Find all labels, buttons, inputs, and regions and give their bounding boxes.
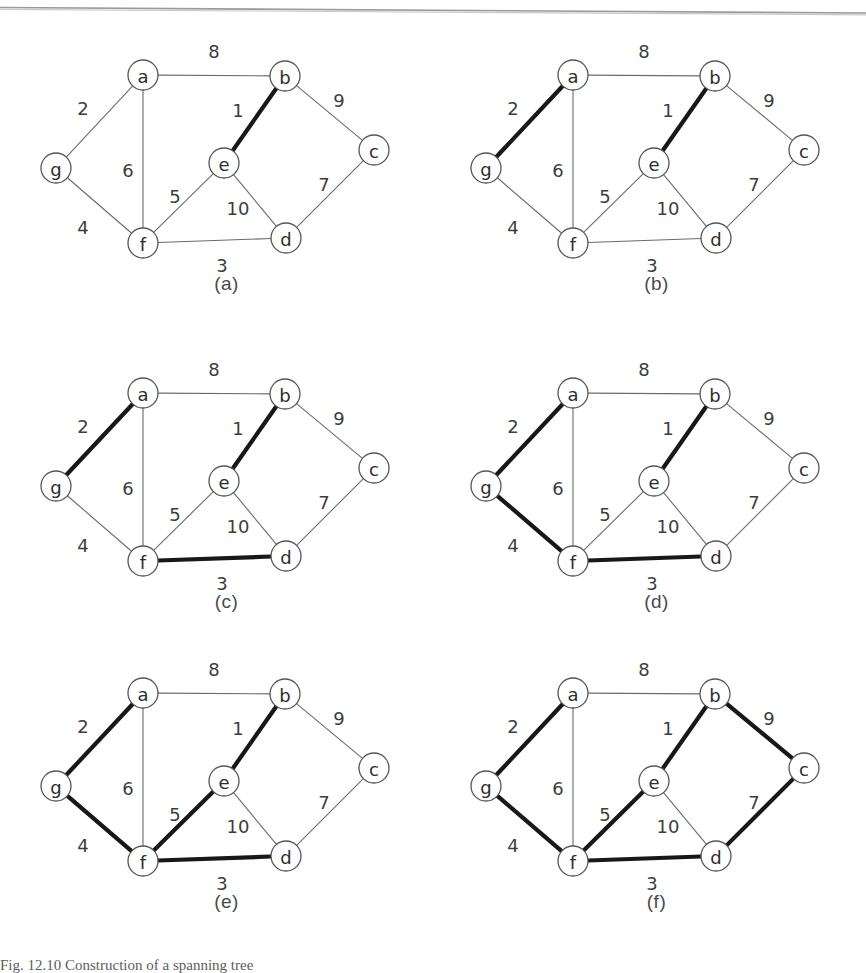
- edge-a-g-highlighted: [496, 86, 563, 157]
- node-label-e: e: [648, 472, 659, 493]
- node-label-f: f: [140, 852, 147, 873]
- graph-panel-a: 82691710354abcdefg(a): [10, 18, 443, 336]
- node-label-c: c: [799, 141, 809, 162]
- graph-drawing-a: 82691710354abcdefg: [10, 18, 443, 293]
- edge-e-f-highlighted: [584, 792, 644, 851]
- edge-weight-d-e: 10: [227, 816, 250, 837]
- node-label-a: a: [137, 384, 148, 405]
- edge-d-f-highlighted: [588, 857, 701, 861]
- edge-weight-c-d: 7: [318, 174, 329, 195]
- node-label-a: a: [137, 66, 148, 87]
- edge-weight-a-g: 2: [507, 98, 518, 119]
- panel-caption-a: (a): [10, 273, 443, 295]
- node-label-f: f: [570, 234, 577, 255]
- edge-weight-a-b: 8: [638, 41, 649, 62]
- edge-weight-e-f: 5: [599, 804, 610, 825]
- edge-e-f: [584, 174, 644, 233]
- graph-drawing-f: 82691710354abcdefg: [440, 636, 866, 911]
- node-label-g: g: [480, 159, 491, 180]
- edge-weight-a-g: 2: [507, 416, 518, 437]
- node-label-a: a: [567, 684, 578, 705]
- edge-weight-d-e: 10: [657, 516, 680, 537]
- node-label-e: e: [218, 772, 229, 793]
- edge-weight-b-c: 9: [333, 408, 344, 429]
- graph-panel-c: 82691710354abcdefg(c): [10, 336, 443, 654]
- node-label-d: d: [280, 847, 291, 868]
- graph-drawing-c: 82691710354abcdefg: [10, 336, 443, 611]
- edge-weight-b-e: 1: [662, 100, 673, 121]
- node-label-d: d: [710, 229, 721, 250]
- edge-weight-a-f: 6: [552, 478, 563, 499]
- node-label-g: g: [480, 777, 491, 798]
- edge-weight-f-g: 4: [77, 535, 88, 556]
- node-label-c: c: [369, 759, 379, 780]
- edge-b-c: [297, 404, 363, 459]
- node-label-a: a: [567, 66, 578, 87]
- node-label-f: f: [140, 552, 147, 573]
- edge-a-g-highlighted: [496, 704, 563, 775]
- node-label-f: f: [570, 852, 577, 873]
- edge-a-b: [588, 393, 700, 394]
- edge-weight-e-f: 5: [169, 504, 180, 525]
- node-label-d: d: [280, 229, 291, 250]
- edge-e-f-highlighted: [154, 792, 214, 851]
- edge-weight-c-d: 7: [748, 492, 759, 513]
- edge-weight-b-c: 9: [333, 708, 344, 729]
- edge-weight-b-c: 9: [333, 90, 344, 111]
- edge-a-b: [588, 693, 700, 694]
- edge-a-g-highlighted: [496, 404, 563, 475]
- edge-d-f-highlighted: [158, 857, 271, 861]
- edge-e-f: [154, 492, 214, 551]
- edge-weight-f-g: 4: [507, 535, 518, 556]
- edge-weight-e-f: 5: [169, 186, 180, 207]
- edge-weight-b-e: 1: [662, 718, 673, 739]
- edge-weight-a-g: 2: [507, 716, 518, 737]
- edge-weight-c-d: 7: [748, 174, 759, 195]
- edge-weight-a-b: 8: [638, 359, 649, 380]
- edge-weight-d-e: 10: [227, 516, 250, 537]
- edge-c-d: [297, 779, 364, 846]
- edge-b-c: [727, 86, 793, 141]
- panel-caption-d: (d): [440, 591, 866, 613]
- edge-weight-a-g: 2: [77, 98, 88, 119]
- node-label-g: g: [50, 777, 61, 798]
- edge-d-f-highlighted: [588, 557, 701, 561]
- node-label-d: d: [710, 547, 721, 568]
- edge-d-f: [588, 239, 701, 243]
- node-label-f: f: [570, 552, 577, 573]
- edge-weight-a-f: 6: [122, 778, 133, 799]
- node-label-e: e: [218, 154, 229, 175]
- edge-weight-a-f: 6: [552, 160, 563, 181]
- panel-caption-e: (e): [10, 891, 443, 913]
- graph-drawing-b: 82691710354abcdefg: [440, 18, 866, 293]
- edge-weight-d-e: 10: [657, 816, 680, 837]
- graph-panel-d: 82691710354abcdefg(d): [440, 336, 866, 654]
- edge-weight-b-e: 1: [232, 718, 243, 739]
- edge-weight-b-c: 9: [763, 408, 774, 429]
- node-label-a: a: [567, 384, 578, 405]
- node-label-g: g: [480, 477, 491, 498]
- edge-weight-b-c: 9: [763, 90, 774, 111]
- graph-panel-e: 82691710354abcdefg(e): [10, 636, 443, 954]
- node-label-e: e: [648, 154, 659, 175]
- edge-weight-e-f: 5: [599, 186, 610, 207]
- edge-weight-a-f: 6: [552, 778, 563, 799]
- edge-a-g: [66, 86, 133, 157]
- edge-b-c-highlighted: [727, 704, 793, 759]
- node-label-e: e: [648, 772, 659, 793]
- edge-weight-b-e: 1: [232, 418, 243, 439]
- node-label-b: b: [279, 685, 290, 706]
- graph-drawing-e: 82691710354abcdefg: [10, 636, 443, 911]
- edge-weight-c-d: 7: [748, 792, 759, 813]
- edge-weight-a-b: 8: [208, 359, 219, 380]
- edge-a-g-highlighted: [66, 404, 133, 475]
- edge-weight-e-f: 5: [169, 804, 180, 825]
- edge-d-f: [158, 239, 271, 243]
- figure-caption: Fig. 12.10 Construction of a spanning tr…: [0, 957, 866, 973]
- panel-caption-c: (c): [10, 591, 443, 613]
- graph-panel-b: 82691710354abcdefg(b): [440, 18, 866, 336]
- edge-weight-b-e: 1: [662, 418, 673, 439]
- edge-a-g-highlighted: [66, 704, 133, 775]
- node-label-e: e: [218, 472, 229, 493]
- edge-weight-e-f: 5: [599, 504, 610, 525]
